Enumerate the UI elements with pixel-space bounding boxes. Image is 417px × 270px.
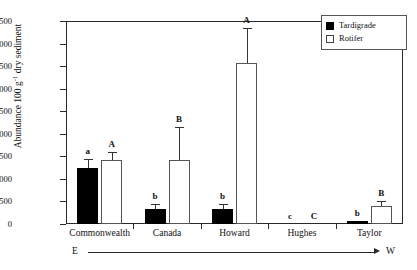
significance-letter-commonwealth-rotifer: A bbox=[102, 140, 122, 149]
error-bar-cap-taylor-rotifer bbox=[377, 201, 386, 202]
error-bar-cap-howard-tardigrade bbox=[219, 204, 228, 205]
bar-commonwealth-tardigrade bbox=[77, 168, 98, 224]
error-bar-cap-commonwealth-tardigrade bbox=[84, 159, 93, 160]
bar-commonwealth-rotifer bbox=[101, 160, 122, 224]
y-tick-label-1500: 1500 bbox=[0, 152, 12, 161]
legend: Tardigrade Rotifer bbox=[321, 15, 407, 50]
legend-item-tardigrade: Tardigrade bbox=[326, 19, 402, 32]
error-bar-cap-commonwealth-rotifer bbox=[108, 152, 117, 153]
error-bar-cap-canada-rotifer bbox=[175, 127, 184, 128]
bar-canada-tardigrade bbox=[145, 209, 166, 224]
direction-arrow-head-icon bbox=[374, 248, 380, 254]
y-tick-label-0: 0 bbox=[0, 220, 12, 229]
y-tick-label-4500: 4500 bbox=[0, 17, 12, 26]
y-tick-label-2000: 2000 bbox=[0, 130, 12, 139]
y-axis-title-exponent: -1 bbox=[11, 76, 18, 82]
direction-axis-line bbox=[88, 252, 376, 253]
error-bar-stem-commonwealth-rotifer bbox=[112, 152, 113, 160]
y-tick-label-3000: 3000 bbox=[0, 85, 12, 94]
y-tick-label-4000: 4000 bbox=[0, 40, 12, 49]
y-axis-title: Abundance 100 g-1 dry sediment bbox=[11, 0, 23, 196]
bar-taylor-rotifer bbox=[371, 206, 392, 224]
y-tick-mark-0 bbox=[60, 224, 66, 225]
bar-howard-rotifer bbox=[236, 63, 257, 224]
significance-letter-taylor-tardigrade: b bbox=[347, 209, 367, 218]
legend-swatch-open-icon bbox=[326, 35, 334, 43]
direction-label-west: W bbox=[386, 246, 395, 256]
y-tick-label-1000: 1000 bbox=[0, 175, 12, 184]
significance-letter-howard-rotifer: A bbox=[237, 16, 257, 25]
significance-letter-commonwealth-tardigrade: a bbox=[78, 147, 98, 156]
significance-letter-canada-tardigrade: b bbox=[145, 192, 165, 201]
significance-letter-hughes-tardigrade: c bbox=[280, 212, 300, 221]
significance-letter-howard-tardigrade: b bbox=[213, 192, 233, 201]
legend-item-rotifer: Rotifer bbox=[326, 32, 402, 45]
legend-swatch-filled-icon bbox=[326, 22, 334, 30]
significance-letter-taylor-rotifer: B bbox=[371, 189, 391, 198]
error-bar-cap-howard-rotifer bbox=[243, 28, 252, 29]
bar-howard-tardigrade bbox=[212, 209, 233, 224]
error-bar-stem-howard-rotifer bbox=[247, 28, 248, 63]
legend-label-rotifer: Rotifer bbox=[339, 34, 363, 43]
figure-bar-chart: Abundance 100 g-1 dry sediment 050010001… bbox=[0, 0, 417, 270]
y-tick-label-3500: 3500 bbox=[0, 62, 12, 71]
y-tick-label-500: 500 bbox=[0, 197, 12, 206]
x-axis-label-taylor: Taylor bbox=[319, 228, 417, 238]
y-tick-label-2500: 2500 bbox=[0, 107, 12, 116]
error-bar-stem-canada-rotifer bbox=[179, 127, 180, 160]
y-axis-title-prefix: Abundance 100 g bbox=[13, 81, 23, 148]
error-bar-cap-canada-tardigrade bbox=[151, 204, 160, 205]
legend-label-tardigrade: Tardigrade bbox=[339, 21, 376, 30]
significance-letter-canada-rotifer: B bbox=[169, 115, 189, 124]
direction-axis: E W bbox=[66, 246, 403, 260]
significance-letter-hughes-rotifer: C bbox=[304, 212, 324, 221]
direction-label-east: E bbox=[72, 246, 78, 256]
y-axis-title-suffix: dry sediment bbox=[13, 24, 23, 76]
bar-taylor-tardigrade bbox=[347, 221, 368, 224]
bar-canada-rotifer bbox=[169, 160, 190, 224]
error-bar-stem-commonwealth-tardigrade bbox=[88, 159, 89, 168]
